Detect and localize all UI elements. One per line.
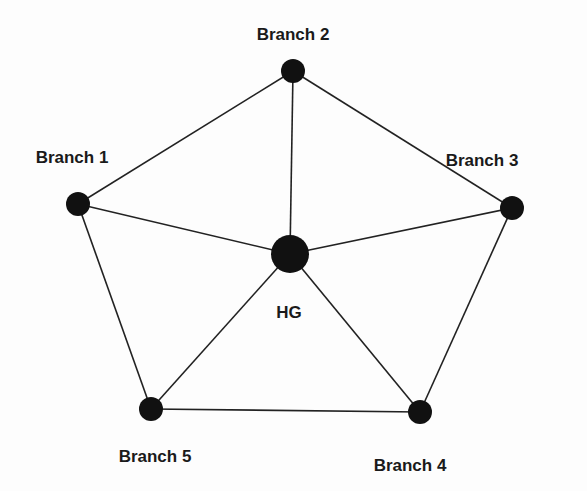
- edge-b2-b3: [293, 71, 512, 208]
- edge-b1-b2: [78, 71, 293, 204]
- node-b2: [281, 59, 305, 83]
- node-label-b1: Branch 1: [36, 148, 109, 167]
- node-b1: [66, 192, 90, 216]
- node-label-b4: Branch 4: [374, 456, 447, 475]
- edge-hg-b2: [290, 71, 293, 254]
- node-b5: [139, 397, 163, 421]
- node-label-b5: Branch 5: [119, 447, 192, 466]
- node-label-b3: Branch 3: [446, 151, 519, 170]
- edge-hg-b5: [151, 254, 290, 409]
- node-b3: [500, 196, 524, 220]
- node-label-b2: Branch 2: [257, 25, 330, 44]
- edge-b5-b1: [78, 204, 151, 409]
- node-b4: [408, 400, 432, 424]
- edge-b3-b4: [420, 208, 512, 412]
- node-hg: [271, 235, 309, 273]
- nodes-group: [66, 59, 524, 424]
- edge-hg-b3: [290, 208, 512, 254]
- edge-b4-b5: [151, 409, 420, 412]
- node-label-hg: HG: [276, 303, 302, 322]
- edge-hg-b4: [290, 254, 420, 412]
- network-diagram: HGBranch 1Branch 2Branch 3Branch 4Branch…: [0, 0, 587, 491]
- edge-hg-b1: [78, 204, 290, 254]
- diagram-svg: HGBranch 1Branch 2Branch 3Branch 4Branch…: [0, 0, 587, 491]
